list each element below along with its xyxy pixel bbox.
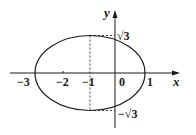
ellipse-diagram: x y −3 −2 −1 0 1 √3 −√3 xyxy=(0,0,196,135)
y-axis-arrow-icon xyxy=(113,10,118,18)
x-tick-label: −3 xyxy=(17,75,30,89)
y-axis-label: y xyxy=(102,5,110,20)
y-tick-label: −√3 xyxy=(118,107,137,121)
x-tick-label: −2 xyxy=(56,75,69,89)
x-tick-label: 1 xyxy=(147,75,153,89)
x-tick-label: −1 xyxy=(82,75,95,89)
y-tick-label: √3 xyxy=(117,29,130,43)
x-axis-label: x xyxy=(172,74,180,89)
x-tick-label: 0 xyxy=(119,75,125,89)
